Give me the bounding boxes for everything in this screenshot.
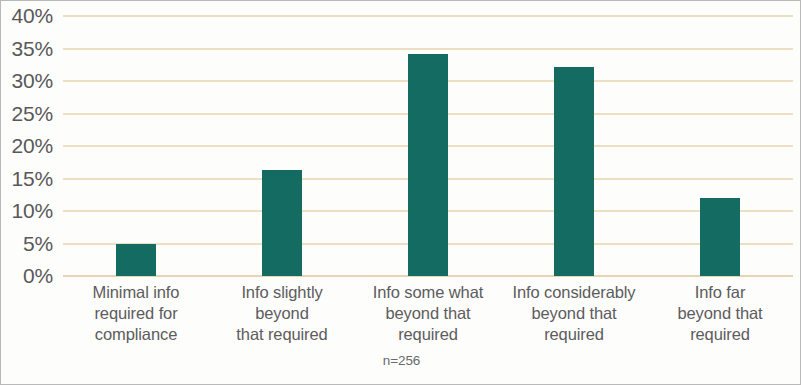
y-tick-label: 10% xyxy=(1,200,53,221)
x-tick-label-line: Info some what xyxy=(355,282,501,303)
x-tick-label-line: Minimal info xyxy=(63,282,209,303)
gridline-40pct xyxy=(63,15,793,17)
y-tick-label: 35% xyxy=(1,38,53,59)
x-tick-label-line: beyond that xyxy=(647,303,793,324)
x-axis-category-labels: Minimal inforequired forcomplianceInfo s… xyxy=(63,282,793,352)
x-tick-label-line: required xyxy=(647,324,793,345)
y-tick-label: 30% xyxy=(1,70,53,91)
x-tick-label: Info slightlybeyondthat required xyxy=(209,282,355,345)
plot-area xyxy=(63,16,793,276)
x-tick-label-line: beyond that xyxy=(355,303,501,324)
x-tick-label-line: Info considerably xyxy=(501,282,647,303)
bar xyxy=(116,244,156,277)
x-tick-label-line: required xyxy=(355,324,501,345)
x-tick-label-line: required for xyxy=(63,303,209,324)
y-tick-label: 5% xyxy=(1,233,53,254)
x-tick-label: Info considerablybeyond thatrequired xyxy=(501,282,647,345)
x-tick-label-line: that required xyxy=(209,324,355,345)
bar xyxy=(408,54,448,276)
y-tick-label: 20% xyxy=(1,135,53,156)
x-tick-label-line: Info far xyxy=(647,282,793,303)
x-tick-label: Minimal inforequired forcompliance xyxy=(63,282,209,345)
bar xyxy=(700,198,740,276)
x-tick-label: Info some whatbeyond thatrequired xyxy=(355,282,501,345)
y-axis: 0%5%10%15%20%25%30%35%40% xyxy=(1,1,59,291)
gridline-35pct xyxy=(63,48,793,50)
x-tick-label-line: Info slightly xyxy=(209,282,355,303)
bar xyxy=(554,67,594,276)
y-tick-label: 40% xyxy=(1,5,53,26)
y-tick-label: 25% xyxy=(1,103,53,124)
x-tick-label: Info farbeyond thatrequired xyxy=(647,282,793,345)
x-tick-label-line: compliance xyxy=(63,324,209,345)
bar-chart: 0%5%10%15%20%25%30%35%40% Minimal infore… xyxy=(0,0,801,385)
y-tick-label: 15% xyxy=(1,168,53,189)
sample-size-annotation: n=256 xyxy=(1,353,801,368)
x-tick-label-line: beyond xyxy=(209,303,355,324)
x-tick-label-line: beyond that xyxy=(501,303,647,324)
y-tick-label: 0% xyxy=(1,265,53,286)
x-tick-label-line: required xyxy=(501,324,647,345)
bar xyxy=(262,170,302,276)
